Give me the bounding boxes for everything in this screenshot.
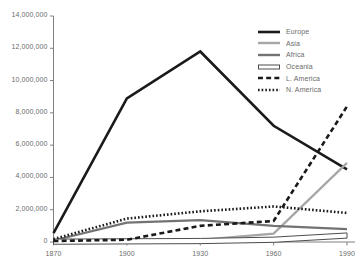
legend-item-asia[interactable]: Asia bbox=[258, 38, 358, 50]
legend-swatch-icon bbox=[258, 73, 280, 83]
legend-swatch-icon bbox=[258, 85, 280, 95]
legend-item-label: Asia bbox=[286, 40, 300, 47]
x-tick-label: 1990 bbox=[322, 250, 363, 257]
x-tick-label: 1870 bbox=[29, 250, 79, 257]
x-tick-label: 1960 bbox=[249, 250, 299, 257]
legend-swatch-icon bbox=[258, 38, 280, 48]
x-tick-label: 1930 bbox=[175, 250, 225, 257]
y-tick-label: 0 bbox=[44, 237, 48, 244]
chart-legend: EuropeAsiaAfricaOceaniaL. AmericaN. Amer… bbox=[258, 26, 358, 96]
legend-item-label: Africa bbox=[286, 51, 305, 58]
legend-item-oceania[interactable]: Oceania bbox=[258, 61, 358, 73]
legend-item-label: Europe bbox=[286, 28, 309, 35]
legend-item-n-america[interactable]: N. America bbox=[258, 84, 358, 96]
y-tick-label: 4,000,000 bbox=[15, 172, 47, 179]
legend-item-europe[interactable]: Europe bbox=[258, 26, 358, 38]
y-tick-label: 6,000,000 bbox=[15, 140, 47, 147]
legend-item-label: L. America bbox=[286, 75, 320, 82]
series-n-america bbox=[54, 206, 348, 239]
line-chart: 02,000,0004,000,0006,000,0008,000,00010,… bbox=[0, 0, 363, 271]
y-tick-label: 8,000,000 bbox=[15, 108, 47, 115]
y-tick-label: 14,000,000 bbox=[11, 11, 47, 18]
legend-item-l-america[interactable]: L. America bbox=[258, 72, 358, 84]
x-tick-label: 1900 bbox=[102, 250, 152, 257]
series-oceania bbox=[54, 233, 348, 244]
legend-item-africa[interactable]: Africa bbox=[258, 49, 358, 61]
y-tick-label: 12,000,000 bbox=[11, 43, 47, 50]
legend-swatch-icon bbox=[258, 62, 280, 72]
y-tick-label: 10,000,000 bbox=[11, 76, 47, 83]
legend-item-label: N. America bbox=[286, 86, 321, 93]
legend-swatch-icon bbox=[258, 50, 280, 60]
legend-swatch-icon bbox=[258, 27, 280, 37]
y-tick-label: 2,000,000 bbox=[15, 205, 47, 212]
legend-item-label: Oceania bbox=[286, 63, 313, 70]
